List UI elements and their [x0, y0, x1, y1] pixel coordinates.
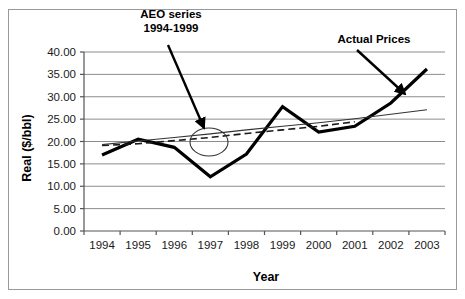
x-axis-tick-label: 2003 — [414, 239, 440, 251]
y-axis-tick-label: 35.00 — [47, 68, 76, 80]
x-axis-tick-label: 1998 — [234, 239, 260, 251]
x-axis-tick-label: 1999 — [270, 239, 296, 251]
y-axis-tick-label: 0.00 — [54, 225, 76, 237]
aeo-series-annotation-label: 1994-1999 — [144, 22, 199, 34]
x-axis-tick-label: 2000 — [306, 239, 332, 251]
y-axis-tick-label: 20.00 — [47, 136, 76, 148]
aeo-series-annotation-label: AEO series — [140, 8, 201, 20]
x-axis-tick-label: 2001 — [342, 239, 368, 251]
y-axis-tick-label: 15.00 — [47, 158, 76, 170]
oil-price-line-chart: 0.005.0010.0015.0020.0025.0030.0035.0040… — [0, 0, 465, 299]
x-axis-tick-label: 1997 — [198, 239, 224, 251]
x-axis-tick-label: 1994 — [89, 239, 115, 251]
x-axis-tick-label: 1996 — [161, 239, 187, 251]
actual-prices-annotation-label: Actual Prices — [338, 33, 411, 45]
chart-figure: 0.005.0010.0015.0020.0025.0030.0035.0040… — [0, 0, 465, 299]
y-axis-tick-label: 25.00 — [47, 113, 76, 125]
x-axis-tick-label: 1995 — [125, 239, 151, 251]
y-axis-title: Real ($/bbl) — [20, 114, 34, 181]
y-axis-tick-label: 30.00 — [47, 91, 76, 103]
x-axis-title: Year — [253, 270, 280, 284]
y-axis-tick-label: 10.00 — [47, 180, 76, 192]
y-axis-tick-label: 5.00 — [54, 203, 76, 215]
x-axis-tick-label: 2002 — [378, 239, 404, 251]
y-axis-tick-label: 40.00 — [47, 46, 76, 58]
